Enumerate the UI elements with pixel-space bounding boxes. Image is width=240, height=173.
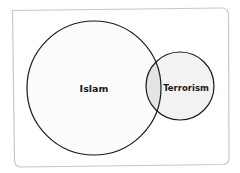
set-terrorism-label: Terrorism: [163, 83, 209, 93]
venn-diagram-canvas: Islam Terrorism: [0, 0, 240, 173]
venn-diagram: Islam Terrorism: [0, 0, 240, 173]
set-islam-label: Islam: [80, 83, 109, 94]
